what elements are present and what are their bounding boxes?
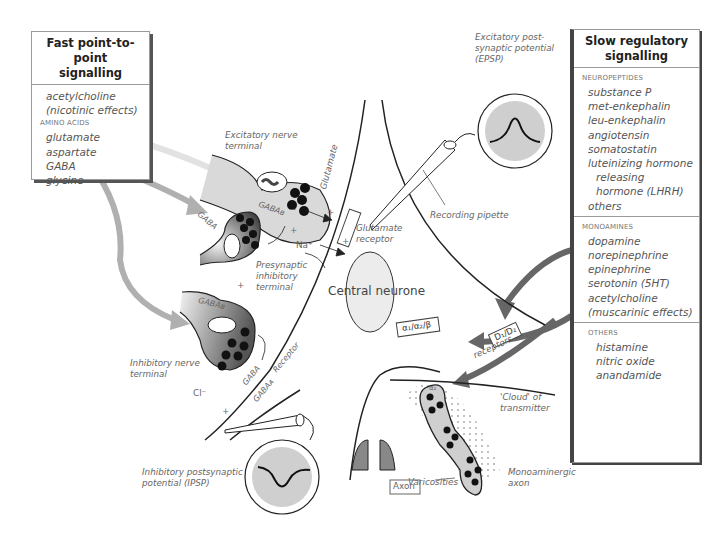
ipsp-label: Inhibitory postsynapticpotential (IPSP)	[142, 467, 243, 489]
list-item: dopamine	[574, 234, 699, 248]
list-item: angiotensin	[574, 128, 699, 142]
list-item: luteinizing hormone	[574, 156, 699, 170]
monoamines-section: MONOAMINES dopamine norepinephrine epine…	[574, 216, 699, 322]
axon-hillock	[352, 440, 395, 470]
list-item: hormone (LHRH)	[574, 184, 699, 198]
list-item: acetylcholine	[32, 89, 149, 103]
epsp-label: Excitatory post-synaptic potential(EPSP)	[475, 32, 554, 65]
list-item: (nicotinic effects)	[32, 103, 149, 117]
monoaminergic-axon-label: Monoaminergicaxon	[508, 467, 576, 489]
monoamine-arrow	[452, 248, 580, 388]
others-section: OTHERS histamine nitric oxide anandamide	[574, 322, 699, 386]
plus-sign: +	[342, 236, 349, 247]
list-item: met-enkephalin	[574, 99, 699, 113]
fast-box-title: Fast point-to-point signalling	[32, 32, 149, 85]
list-item: somatostatin	[574, 142, 699, 156]
list-item: glutamate	[32, 130, 149, 144]
list-item: glycine	[32, 173, 149, 187]
plus-sign: +	[237, 280, 244, 291]
list-item: GABA	[32, 159, 149, 173]
chloride-ion-label: Cl⁻	[193, 388, 206, 399]
list-item: norepinephrine	[574, 248, 699, 262]
minus-sign: −	[289, 204, 296, 215]
presynaptic-terminal-label: Presynapticinhibitoryterminal	[256, 260, 307, 293]
plus-sign: +	[327, 207, 334, 218]
sodium-ion-label: Na⁺	[296, 240, 313, 251]
recording-pipette-bottom	[225, 414, 314, 440]
plus-sign: +	[222, 406, 229, 417]
list-item: aspartate	[32, 145, 149, 159]
recording-pipette-label: Recording pipette	[430, 210, 509, 221]
alpha2-label: α₂	[429, 383, 436, 394]
list-item: nitric oxide	[574, 354, 699, 368]
list-item: acetylcholine	[574, 291, 699, 305]
excitatory-terminal-label: Excitatory nerveterminal	[225, 130, 298, 152]
neuropeptides-section: NEUROPEPTIDES substance P met-enkephalin…	[574, 68, 699, 216]
list-item: substance P	[574, 85, 699, 99]
category-label: AMINO ACIDS	[32, 119, 149, 127]
list-item: releasing	[574, 170, 699, 184]
list-item: serotonin (5HT)	[574, 276, 699, 290]
slow-signalling-panel: Slow regulatory signalling NEUROPEPTIDES…	[570, 29, 700, 463]
list-item: anandamide	[574, 368, 699, 382]
list-item: leu-enkephalin	[574, 113, 699, 127]
list-item: others	[574, 199, 699, 213]
varicosities-label: Varicosities	[408, 477, 458, 488]
minus-sign: −	[243, 318, 250, 329]
plus-sign: +	[290, 225, 297, 236]
excitatory-terminal	[200, 155, 330, 243]
list-item: histamine	[574, 340, 699, 354]
list-item: (muscarinic effects)	[574, 305, 699, 319]
central-neurone-label: Central neurone	[328, 286, 425, 297]
list-item: epinephrine	[574, 262, 699, 276]
slow-box-title: Slow regulatory signalling	[574, 30, 699, 68]
inhibitory-terminal-label: Inhibitory nerveterminal	[130, 358, 200, 380]
glutamate-receptor-label: Glutamatereceptor	[356, 223, 403, 245]
epsp-trace	[478, 94, 552, 168]
fast-signalling-box: Fast point-to-point signalling acetylcho…	[31, 31, 150, 180]
cloud-label: 'Cloud' oftransmitter	[500, 392, 550, 414]
ipsp-trace	[245, 440, 319, 514]
axon-label: Axon	[393, 481, 415, 492]
